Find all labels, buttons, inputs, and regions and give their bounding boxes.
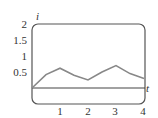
x-tick: 2	[85, 105, 91, 117]
x-tick: 4	[140, 105, 146, 117]
y-tick: 1.5	[13, 34, 27, 46]
x-axis-label: t	[146, 82, 150, 94]
x-tick: 3	[112, 105, 118, 117]
plot-frame	[32, 24, 145, 104]
y-tick: 1	[22, 50, 28, 62]
y-axis-label: i	[36, 10, 39, 22]
chart: i t 0.5 1 1.5 2 1 2 3 4	[0, 0, 158, 118]
x-tick: 1	[57, 105, 63, 117]
y-tick: 0.5	[13, 66, 27, 78]
y-tick: 2	[22, 18, 28, 30]
data-line	[32, 66, 144, 88]
